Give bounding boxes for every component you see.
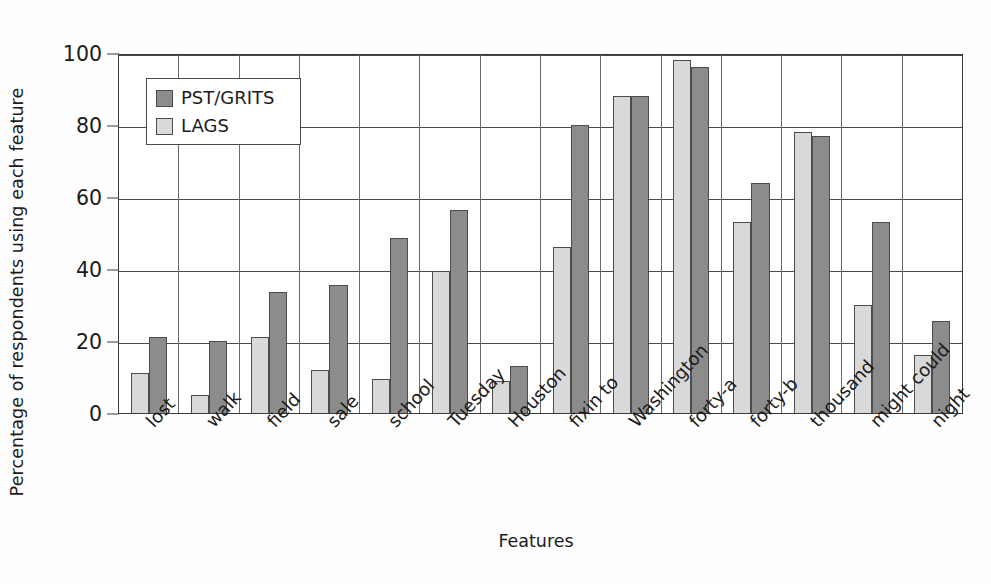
legend: PST/GRITS LAGS	[146, 78, 301, 145]
legend-label-lags: LAGS	[181, 117, 229, 135]
bar-pst-grits-tuesday	[450, 210, 468, 413]
bar-group	[722, 55, 782, 413]
bar-lags-thousand	[794, 132, 812, 413]
bar-group	[842, 55, 902, 413]
legend-item: LAGS	[156, 112, 300, 140]
bar-pst-grits-school	[390, 238, 408, 413]
y-axis-tick-label: 20	[50, 330, 102, 354]
bar-group	[360, 55, 420, 413]
legend-swatch-pst-grits	[156, 90, 173, 107]
bar-group	[420, 55, 480, 413]
bar-pst-grits-forty-b	[751, 183, 769, 413]
bar-lags-sale	[311, 370, 329, 413]
bar-lags-washington	[613, 96, 631, 413]
bar-pst-grits-fixin-to	[571, 125, 589, 413]
bar-pst-grits-might-could	[872, 222, 890, 413]
bar-group	[300, 55, 360, 413]
bar-group	[541, 55, 601, 413]
y-axis-tick-label: 40	[50, 258, 102, 282]
bar-group	[481, 55, 541, 413]
y-axis-tick-label: 0	[50, 402, 102, 426]
bar-lags-school	[372, 379, 390, 413]
y-axis-tick-label: 100	[50, 42, 102, 66]
y-axis-tick-label: 80	[50, 114, 102, 138]
x-axis-title: Features	[108, 531, 964, 551]
bar-pst-grits-washington	[631, 96, 649, 413]
y-axis-title: Percentage of respondents using each fea…	[0, 0, 34, 584]
bar-group	[782, 55, 842, 413]
legend-swatch-lags	[156, 118, 173, 135]
bar-lags-field	[251, 337, 269, 413]
bar-lags-lost	[131, 373, 149, 413]
legend-label-pst-grits: PST/GRITS	[181, 89, 275, 107]
bar-group	[601, 55, 661, 413]
legend-item: PST/GRITS	[156, 84, 300, 112]
bar-pst-grits-thousand	[812, 136, 830, 413]
x-axis-tick-labels: lostwalkfieldsaleschoolTuesdayHoustonfix…	[118, 414, 963, 534]
y-axis-tick-label: 60	[50, 186, 102, 210]
bar-chart: Percentage of respondents using each fea…	[0, 0, 991, 584]
